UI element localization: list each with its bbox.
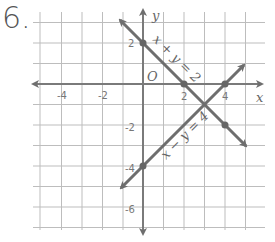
- x-tick-4: 4: [222, 91, 228, 102]
- grid: [33, 12, 265, 230]
- origin-label: O: [147, 69, 158, 84]
- y-axis-label: y: [151, 8, 160, 23]
- y-tick-neg4: -4: [125, 163, 135, 174]
- coordinate-graph: -4 -2 2 4 2 -2 -4 -6 y x O x + y = 2 x −…: [0, 0, 275, 242]
- x-tick-neg2: -2: [98, 90, 108, 101]
- y-tick-neg6: -6: [125, 204, 135, 215]
- y-tick-2: 2: [128, 38, 134, 49]
- x-tick-neg4: -4: [57, 90, 67, 101]
- y-tick-neg2: -2: [125, 122, 135, 133]
- x-axis-label: x: [256, 90, 264, 105]
- axes: [33, 10, 262, 234]
- x-tick-2: 2: [181, 91, 187, 102]
